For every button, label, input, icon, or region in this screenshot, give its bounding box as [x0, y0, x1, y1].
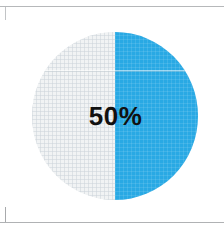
pie-center-label: 50% — [32, 32, 198, 200]
frame-rule-bottom — [0, 222, 224, 223]
pie-chart: 50% — [32, 32, 198, 200]
corner-bracket-top-left — [5, 7, 6, 20]
corner-bracket-bottom-left — [5, 207, 6, 222]
chart-frame: 50% — [0, 0, 224, 230]
frame-rule-top — [0, 6, 224, 7]
